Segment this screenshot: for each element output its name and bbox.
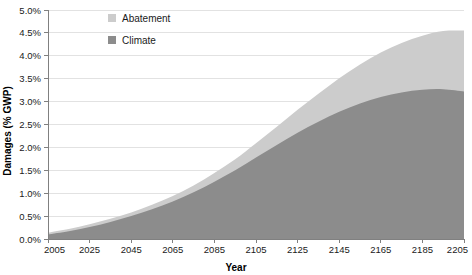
y-tick-label: 2.0% xyxy=(19,142,41,153)
y-tick-label: 0.0% xyxy=(19,234,41,245)
legend-swatch-climate xyxy=(108,36,116,44)
x-tick-label: 2145 xyxy=(329,244,350,255)
y-tick-label: 0.5% xyxy=(19,211,41,222)
y-axis-title: Damages (% GWP) xyxy=(2,86,13,175)
x-tick-label: 2005 xyxy=(44,244,65,255)
x-tick-label: 2165 xyxy=(370,244,391,255)
x-tick-label: 2045 xyxy=(121,244,142,255)
area-series-group xyxy=(48,31,464,239)
x-axis-title: Year xyxy=(225,262,246,273)
y-tick-label: 3.5% xyxy=(19,73,41,84)
y-tick-label: 2.5% xyxy=(19,119,41,130)
y-tick-label: 5.0% xyxy=(19,5,41,16)
x-tick-label: 2205 xyxy=(447,244,468,255)
x-axis-ticks-group: 2005202520452065208521052125214521652185… xyxy=(44,239,468,255)
x-tick-label: 2085 xyxy=(204,244,225,255)
x-tick-label: 2185 xyxy=(412,244,433,255)
legend-swatch-abatement xyxy=(108,14,116,22)
legend-label-climate: Climate xyxy=(122,35,156,46)
x-tick-label: 2125 xyxy=(287,244,308,255)
legend-label-abatement: Abatement xyxy=(122,13,171,24)
y-tick-label: 4.0% xyxy=(19,50,41,61)
x-tick-label: 2105 xyxy=(245,244,266,255)
x-tick-label: 2065 xyxy=(162,244,183,255)
x-tick-label: 2025 xyxy=(79,244,100,255)
y-tick-label: 1.5% xyxy=(19,165,41,176)
y-tick-label: 4.5% xyxy=(19,27,41,38)
y-tick-label: 1.0% xyxy=(19,188,41,199)
y-axis-ticks-group: 0.0%0.5%1.0%1.5%2.0%2.5%3.0%3.5%4.0%4.5%… xyxy=(19,5,48,245)
y-tick-label: 3.0% xyxy=(19,96,41,107)
chart-container: 0.0%0.5%1.0%1.5%2.0%2.5%3.0%3.5%4.0%4.5%… xyxy=(0,0,472,275)
legend: Abatement Climate xyxy=(108,13,171,46)
area-chart: 0.0%0.5%1.0%1.5%2.0%2.5%3.0%3.5%4.0%4.5%… xyxy=(0,0,472,275)
